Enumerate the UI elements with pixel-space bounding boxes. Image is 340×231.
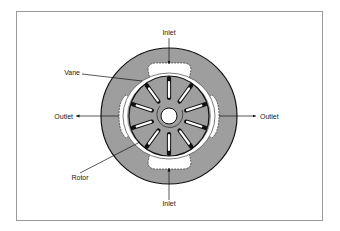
label-inlet-top: Inlet — [162, 29, 175, 36]
label-outlet-left: Outlet — [54, 113, 73, 120]
label-vane: Vane — [64, 69, 80, 76]
shaft-bore — [161, 108, 177, 124]
label-outlet-right: Outlet — [260, 113, 279, 120]
label-rotor: Rotor — [71, 174, 89, 181]
vane-pump-diagram: Inlet Inlet Outlet Outlet Vane Rotor — [0, 0, 340, 231]
label-inlet-bottom: Inlet — [162, 200, 175, 207]
